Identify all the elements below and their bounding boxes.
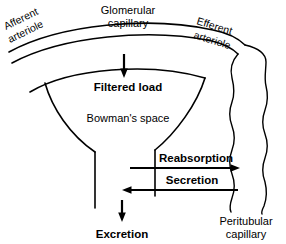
glomerular-capillary-label: Glomerular capillary	[101, 4, 156, 29]
reabsorption-label: Reabsorption	[159, 152, 233, 164]
bowmans-space-label: Bowman's space	[87, 112, 170, 124]
excretion-label: Excretion	[96, 228, 148, 240]
peritubular-capillary-label-line2: capillary	[226, 228, 267, 240]
secretion-label: Secretion	[166, 174, 218, 186]
peritubular-capillary-label: Peritubular capillary	[219, 215, 273, 240]
filtered-load-label: Filtered load	[94, 81, 162, 93]
glomerular-capillary-label-line1: Glomerular	[101, 4, 156, 16]
glomerular-capillary-label-line2: capillary	[108, 17, 149, 29]
peritubular-capillary-label-line1: Peritubular	[219, 215, 273, 227]
nephron-diagram: Afferent arteriole Glomerular capillary …	[0, 0, 286, 244]
nephron-diagram-canvas: Afferent arteriole Glomerular capillary …	[0, 0, 286, 244]
